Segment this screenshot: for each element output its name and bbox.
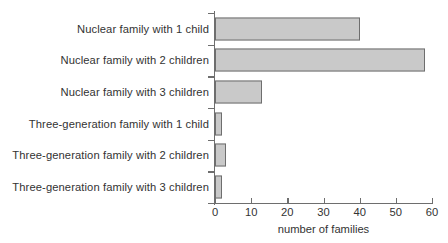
- bar-row: Nuclear family with 2 children: [0, 45, 448, 77]
- y-axis-tick: [208, 108, 215, 109]
- x-axis-tick-label: 60: [426, 206, 438, 218]
- x-axis-tick-label: 50: [390, 206, 402, 218]
- x-axis-tick: [251, 198, 252, 204]
- x-axis-tick: [324, 198, 325, 204]
- y-axis-tick: [208, 203, 215, 204]
- category-label: Three-generation family with 3 children: [12, 181, 209, 193]
- bar-row: Three-generation family with 2 children: [0, 140, 448, 172]
- bar: [215, 176, 222, 199]
- y-axis-tick: [208, 13, 215, 14]
- x-axis-tick-label: 40: [353, 206, 365, 218]
- y-axis-tick: [208, 45, 215, 46]
- y-axis-tick: [208, 76, 215, 77]
- x-axis-tick-label: 0: [212, 206, 218, 218]
- bar-row: Three-generation family with 1 child: [0, 108, 448, 140]
- x-axis-title: number of families: [215, 223, 432, 235]
- x-axis-tick: [215, 198, 216, 204]
- category-label: Three-generation family with 1 child: [29, 118, 209, 130]
- bar-chart: Nuclear family with 1 child Nuclear fami…: [0, 0, 448, 243]
- x-axis-tick: [432, 198, 433, 204]
- y-axis-tick: [208, 171, 215, 172]
- bar-row: Nuclear family with 1 child: [0, 13, 448, 45]
- bar: [215, 144, 226, 167]
- x-axis-tick: [360, 198, 361, 204]
- bar: [215, 81, 262, 104]
- chart-plot-area: Nuclear family with 1 child Nuclear fami…: [0, 13, 448, 203]
- bar: [215, 49, 425, 72]
- category-label: Nuclear family with 2 children: [61, 54, 210, 66]
- x-axis-tick-label: 20: [281, 206, 293, 218]
- bar: [215, 17, 360, 40]
- bar: [215, 112, 222, 135]
- category-label: Nuclear family with 3 children: [61, 86, 210, 98]
- bar-row: Nuclear family with 3 children: [0, 76, 448, 108]
- y-axis-tick: [208, 140, 215, 141]
- bar-row: Three-generation family with 3 children: [0, 171, 448, 203]
- x-axis-tick: [287, 198, 288, 204]
- category-label: Nuclear family with 1 child: [77, 23, 209, 35]
- x-axis-tick: [396, 198, 397, 204]
- category-label: Three-generation family with 2 children: [12, 149, 209, 161]
- x-axis-tick-label: 10: [245, 206, 257, 218]
- x-axis-tick-label: 30: [317, 206, 329, 218]
